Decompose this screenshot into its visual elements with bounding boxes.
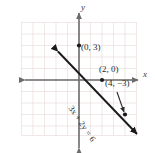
- coordinate-plane: [0, 0, 155, 153]
- point-label-0-3: (0, 3): [81, 43, 101, 52]
- x-axis-label: x: [143, 70, 147, 79]
- point-label-4-neg3: (4, −3): [105, 79, 130, 88]
- point-label-2-0: (2, 0): [99, 65, 119, 74]
- leader-line-4-neg3: [117, 92, 124, 112]
- point-2-0: [100, 78, 104, 82]
- y-axis-label: y: [81, 3, 85, 12]
- graph-figure: y x (0, 3) (2, 0) (4, −3) 3x + 2y = 6: [0, 0, 155, 153]
- point-4-neg3: [123, 112, 127, 116]
